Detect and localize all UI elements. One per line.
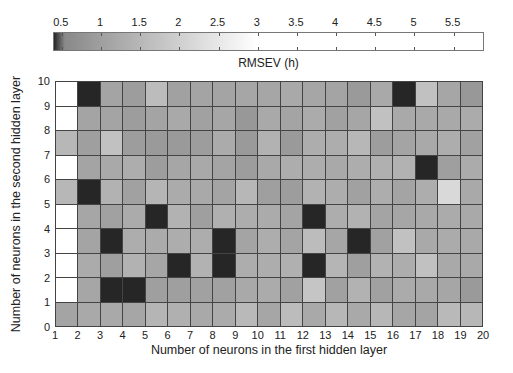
heatmap-cell [213,205,234,229]
heatmap-cell [393,156,414,180]
heatmap-cell [191,82,212,106]
colorbar-tick-mark [375,47,376,50]
y-tick-label: 0 [44,321,50,333]
heatmap-cell [438,278,459,302]
heatmap-cell [168,82,189,106]
heatmap-cell [168,303,189,327]
heatmap-cell [371,131,392,155]
heatmap-cell [393,131,414,155]
x-tick-label: 6 [165,329,171,341]
x-tick-label: 4 [120,329,126,341]
heatmap-cell [461,278,482,302]
heatmap-cell [303,107,324,131]
heatmap-cell [416,82,437,106]
y-tick-label: 3 [44,247,50,259]
x-tick-label: 17 [409,329,421,341]
x-tick-label: 16 [387,329,399,341]
colorbar-tick-label: 4.5 [367,16,382,28]
x-tick-label: 20 [477,329,489,341]
heatmap-cell [168,156,189,180]
heatmap-cell [281,82,302,106]
heatmap-cell [348,156,369,180]
heatmap-cell [101,205,122,229]
heatmap-cell [56,131,77,155]
heatmap-cell [146,303,167,327]
heatmap-cell [348,229,369,253]
heatmap-cell [303,303,324,327]
heatmap-cell [393,82,414,106]
heatmap-cell [281,229,302,253]
y-tick-label: 4 [44,223,50,235]
y-tick-label: 5 [44,198,50,210]
heatmap-cell [123,131,144,155]
heatmap-cell [416,254,437,278]
y-tick-label: 6 [44,173,50,185]
heatmap-cell [348,254,369,278]
heatmap-cell [326,131,347,155]
x-tick-label: 7 [187,329,193,341]
colorbar-tick-label: 3 [254,16,260,28]
heatmap-cell [101,180,122,204]
y-tick-label: 9 [44,100,50,112]
heatmap-cell [191,278,212,302]
heatmap-cell [168,229,189,253]
heatmap-cell [438,156,459,180]
heatmap-cell [168,107,189,131]
heatmap-cell [281,205,302,229]
heatmap-cell [258,278,279,302]
heatmap-cell [56,180,77,204]
heatmap-cell [371,156,392,180]
x-tick-label: 14 [342,329,354,341]
heatmap-cell [146,82,167,106]
heatmap-cell [101,278,122,302]
heatmap-cell [213,107,234,131]
heatmap-cell [258,107,279,131]
colorbar-tick-mark [258,47,259,50]
x-tick-label: 8 [210,329,216,341]
heatmap-cell [438,229,459,253]
heatmap-cell [236,107,257,131]
heatmap-cell [168,131,189,155]
heatmap-cell [258,229,279,253]
y-tick-label: 8 [44,124,50,136]
heatmap-cell [326,156,347,180]
heatmap-cell [348,131,369,155]
heatmap-cell [461,107,482,131]
heatmap-cell [213,82,234,106]
heatmap-cell [236,180,257,204]
heatmap-cell [326,180,347,204]
heatmap-cell [101,156,122,180]
heatmap-cell [348,82,369,106]
x-tick-label: 15 [364,329,376,341]
heatmap-cell [371,229,392,253]
heatmap-cell [416,303,437,327]
heatmap-cell [371,254,392,278]
colorbar-tick-mark [101,33,102,36]
heatmap-cell [78,131,99,155]
heatmap-cell [123,229,144,253]
heatmap-cell [393,229,414,253]
heatmap-cell [348,180,369,204]
heatmap-cell [348,205,369,229]
heatmap-cell [78,229,99,253]
colorbar-tick-mark [454,33,455,36]
heatmap-cell [78,82,99,106]
heatmap-cell [78,205,99,229]
heatmap-cell [371,303,392,327]
heatmap-cell [123,180,144,204]
heatmap-cell [416,180,437,204]
heatmap-cell [303,156,324,180]
heatmap-cell [146,131,167,155]
heatmap-cell [146,254,167,278]
heatmap-cell [326,303,347,327]
heatmap-cell [146,180,167,204]
colorbar [53,32,484,51]
heatmap-cell [303,131,324,155]
heatmap-cell [146,156,167,180]
heatmap-cell [101,303,122,327]
x-tick-label: 3 [97,329,103,341]
heatmap-cell [416,205,437,229]
heatmap-cell [303,254,324,278]
x-tick-label: 9 [232,329,238,341]
heatmap-cell [461,303,482,327]
